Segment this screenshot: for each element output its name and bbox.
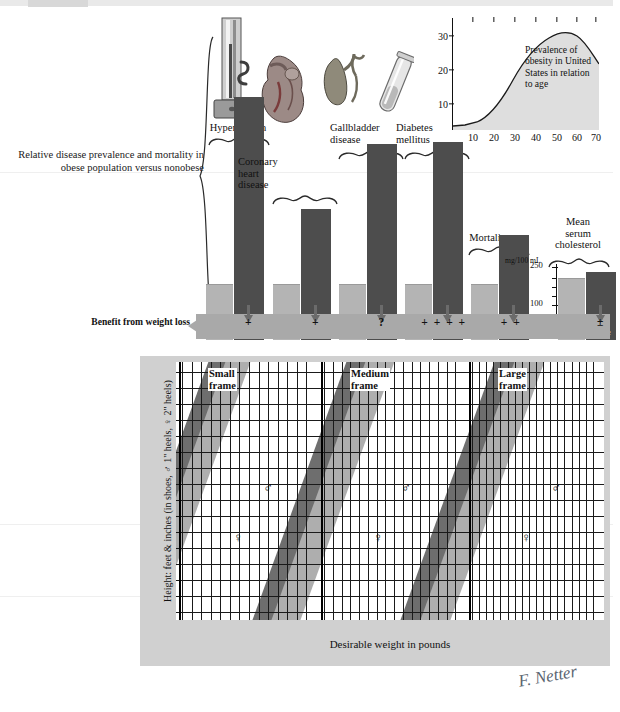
desirable-weight-chart: Height: feet & inches (in shoes, ♂ 1" he… [140, 356, 610, 666]
group-title-cholesterol: Meanserumcholesterol [544, 216, 612, 251]
gridline-vertical-minor [529, 362, 530, 620]
male-marker-icon: ♂ [551, 480, 561, 496]
gridline-vertical-minor [515, 362, 516, 620]
gridline-vertical [522, 362, 523, 620]
group-title-gallbladder: Gallbladderdisease [330, 122, 396, 145]
inset-xlabel-30: 30 [510, 132, 520, 143]
gridline-vertical [306, 362, 307, 620]
inset-ylabel-20: 20 [438, 65, 448, 76]
gridline-vertical-minor [377, 362, 378, 620]
inset-ytick-10 [449, 103, 454, 104]
gridline-vertical [350, 362, 351, 620]
inset-ytick-30 [449, 35, 454, 36]
weight-chart-plot-area: 6'3"6'2"6'1"6'0"5'11"5'10"5'9"5'8"5'7"5'… [176, 362, 604, 620]
weight-chart-x-axis-title: Desirable weight in pounds [176, 638, 604, 650]
inset-xtick-30 [514, 17, 515, 22]
inset-ytick-20 [449, 69, 454, 70]
inset-ylabel-10: 10 [438, 99, 448, 110]
benefit-mark-hypertension: + [228, 316, 270, 328]
benefit-mark-cholesterol: ± [580, 316, 620, 328]
cholesterol-tick-minor-1 [552, 278, 556, 279]
benefit-mark-mortality: + + [487, 316, 535, 328]
cholesterol-tick-minor-3 [552, 296, 556, 297]
gridline-vertical [192, 362, 193, 620]
obesity-prevalence-inset-chart: 10 20 30 10 20 30 40 50 60 70 Prevalence… [412, 14, 608, 150]
top-banner-block-artifact [28, 0, 88, 7]
inset-xlabel-70: 70 [591, 132, 601, 143]
gridline-vertical-minor [239, 362, 240, 620]
gridline-vertical-minor [500, 362, 501, 620]
gridline-vertical [420, 362, 421, 620]
gridline-vertical [536, 362, 537, 620]
inset-xlabel-10: 10 [468, 132, 478, 143]
benefit-mark-gallbladder: ? [361, 316, 403, 328]
gridline-vertical [508, 362, 509, 620]
brace-coronary [272, 195, 338, 205]
gridline-vertical [455, 362, 456, 620]
left-description-text: Relative disease prevalence and mortalit… [6, 148, 204, 174]
inset-xtick-50 [556, 17, 557, 22]
inset-xtick-70 [595, 17, 596, 22]
female-marker-icon: ♀ [521, 530, 531, 546]
inset-xtick-40 [535, 17, 536, 22]
gridline-vertical [579, 362, 580, 620]
cholesterol-tick-minor-2 [552, 287, 556, 288]
gridline-vertical-minor [359, 362, 360, 620]
gridline-vertical [230, 362, 231, 620]
gridline-vertical-minor [324, 362, 325, 620]
gridline-vertical-minor [586, 362, 587, 620]
band-small-frame-male [176, 362, 254, 620]
gridline-vertical-minor [412, 362, 413, 620]
frame-title-large: Largeframe [498, 368, 527, 391]
group-title-coronary: Coronaryheartdisease [238, 156, 300, 191]
gridline-vertical-minor [201, 362, 202, 620]
inset-xlabel-50: 50 [552, 132, 562, 143]
gridline-vertical-minor [486, 362, 487, 620]
inset-ylabel-30: 30 [438, 31, 448, 42]
gridline-vertical-minor [447, 362, 448, 620]
cholesterol-tick-label-250: 250 [530, 260, 543, 270]
gridline-vertical [593, 362, 594, 620]
gridline-vertical-minor [259, 362, 260, 620]
frame-title-small: Smallframe [208, 368, 237, 391]
gridline-vertical-minor [543, 362, 544, 620]
bar-obese-hypertension: Obese [234, 97, 264, 340]
inset-xlabel-40: 40 [531, 132, 541, 143]
inset-xtick-10 [472, 17, 473, 22]
female-marker-icon: ♀ [373, 530, 383, 546]
benefit-mark-coronary: + [295, 316, 337, 328]
inset-plot-area: 10 20 30 10 20 30 40 50 60 70 Prevalence… [452, 18, 598, 130]
benefit-from-weight-loss-label: Benefit from weight loss [60, 316, 190, 327]
gridline-vertical-minor [429, 362, 430, 620]
gridline-vertical [249, 362, 250, 620]
male-marker-icon: ♂ [401, 480, 411, 496]
frame-separator-line [179, 362, 181, 620]
cholesterol-tick-250 [552, 267, 558, 268]
gridline-vertical-minor [394, 362, 395, 620]
female-marker-icon: ♀ [233, 530, 243, 546]
inset-xlabel-60: 60 [572, 132, 582, 143]
gridline-vertical [333, 362, 334, 620]
inset-xtick-20 [493, 17, 494, 22]
gridline-vertical [287, 362, 288, 620]
gridline-vertical-minor [572, 362, 573, 620]
gridline-vertical-minor [278, 362, 279, 620]
gridline-vertical [479, 362, 480, 620]
gridline-vertical-minor [220, 362, 221, 620]
frame-separator-line [469, 362, 471, 620]
male-marker-icon: ♂ [263, 480, 273, 496]
inset-xlabel-20: 20 [489, 132, 499, 143]
gridline-vertical-minor [182, 362, 183, 620]
top-banner-artifact [0, 0, 613, 6]
gridline-vertical-minor [297, 362, 298, 620]
gridline-vertical [368, 362, 369, 620]
inset-xtick-60 [576, 17, 577, 22]
benefit-mark-diabetes: + + + + [404, 316, 484, 328]
gridline-vertical-minor [342, 362, 343, 620]
frame-separator-line [321, 362, 323, 620]
gridline-vertical [438, 362, 439, 620]
cholesterol-tick-label-100: 100 [530, 298, 543, 308]
inset-caption-text: Prevalence of obesity in United States i… [525, 44, 597, 90]
gridline-vertical [493, 362, 494, 620]
